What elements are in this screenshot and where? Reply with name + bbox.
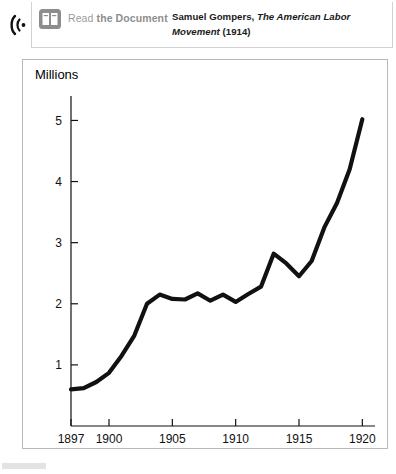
citation-year: (1914) <box>220 26 251 37</box>
y-tick-label: 1 <box>55 358 62 372</box>
y-tick-label: 5 <box>55 114 62 128</box>
x-tick-label: 1920 <box>349 432 376 446</box>
line-chart-plot: 12345 189719001905191019151920 <box>23 60 387 448</box>
y-axis-ticks: 12345 <box>55 114 78 372</box>
read-link-bold-text: the Document <box>97 12 168 24</box>
chart-panel: Millions 12345 189719001905191019151920 <box>22 59 388 449</box>
document-header-region: Read the Document Samuel Gompers, The Am… <box>0 0 396 52</box>
read-the-document-link[interactable]: Read the Document <box>68 12 168 24</box>
source-citation: Samuel Gompers, The American Labor Movem… <box>172 9 372 39</box>
audio-wave-icon[interactable] <box>4 13 30 37</box>
y-tick-label: 3 <box>55 236 62 250</box>
x-tick-label: 1915 <box>286 432 313 446</box>
scan-artifact <box>2 463 46 469</box>
read-link-plain-text: Read <box>68 12 97 24</box>
union-membership-line <box>71 119 362 389</box>
y-tick-label: 4 <box>55 175 62 189</box>
x-tick-label: 1905 <box>159 432 186 446</box>
x-axis-ticks: 189719001905191019151920 <box>58 419 376 446</box>
x-tick-label: 1910 <box>222 432 249 446</box>
open-book-icon[interactable] <box>38 8 62 30</box>
x-tick-label: 1897 <box>58 432 85 446</box>
x-tick-label: 1900 <box>96 432 123 446</box>
citation-author: Samuel Gompers, <box>172 11 257 22</box>
y-tick-label: 2 <box>55 297 62 311</box>
